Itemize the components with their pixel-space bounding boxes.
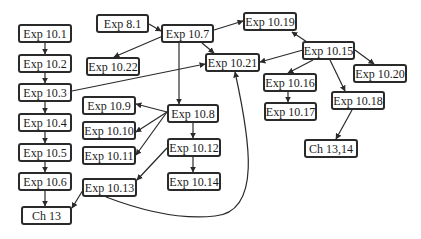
node-ch13: Ch 13 xyxy=(21,206,72,225)
node-label: Exp 10.17 xyxy=(266,106,315,118)
node-label: Exp 10.11 xyxy=(85,150,134,162)
edge-e10_7-to-e10_19 xyxy=(214,21,243,30)
edge-e10_12-to-e10_13 xyxy=(137,148,167,180)
node-label: Exp 10.21 xyxy=(208,57,257,69)
node-e10-16: Exp 10.16 xyxy=(263,73,317,92)
edge-e10_8-to-e10_9 xyxy=(136,104,167,112)
node-label: Exp 10.8 xyxy=(171,108,214,120)
edge-e10_15-to-e10_21 xyxy=(260,50,303,62)
edge-e8_1-to-e10_7 xyxy=(149,24,161,31)
node-label: Exp 10.18 xyxy=(333,95,382,107)
node-e10-1: Exp 10.1 xyxy=(18,24,72,43)
node-label: Exp 10.12 xyxy=(169,142,218,154)
node-ch13-14: Ch 13,14 xyxy=(304,139,358,158)
edge-e10_8-to-e10_10 xyxy=(136,112,167,132)
node-e10-4: Exp 10.4 xyxy=(18,113,72,132)
node-e10-9: Exp 10.9 xyxy=(82,96,136,115)
node-label: Exp 10.16 xyxy=(265,77,314,89)
node-label: Exp 10.22 xyxy=(88,61,137,73)
node-label: Exp 10.19 xyxy=(245,16,294,28)
node-label: Exp 10.10 xyxy=(84,125,133,137)
node-e8-1: Exp 8.1 xyxy=(96,14,149,33)
node-e10-7: Exp 10.7 xyxy=(161,24,214,43)
node-label: Exp 10.6 xyxy=(23,176,66,188)
node-e10-21: Exp 10.21 xyxy=(205,53,260,72)
node-label: Ch 13 xyxy=(32,210,61,222)
node-e10-2: Exp 10.2 xyxy=(18,54,72,73)
node-e10-3: Exp 10.3 xyxy=(18,83,72,102)
node-e10-22: Exp 10.22 xyxy=(86,57,140,76)
edge-e10_8-to-e10_11 xyxy=(136,112,167,155)
node-e10-13: Exp 10.13 xyxy=(82,178,137,197)
node-e10-17: Exp 10.17 xyxy=(264,102,317,121)
edge-e10_7-to-e10_22 xyxy=(114,36,163,57)
node-e10-6: Exp 10.6 xyxy=(18,172,72,191)
node-label: Exp 10.1 xyxy=(23,28,66,40)
node-e10-5: Exp 10.5 xyxy=(18,143,72,162)
node-label: Exp 10.3 xyxy=(23,87,66,99)
node-e10-8: Exp 10.8 xyxy=(167,104,219,123)
node-label: Exp 10.15 xyxy=(304,45,353,57)
node-e10-19: Exp 10.19 xyxy=(243,12,297,31)
node-label: Exp 10.7 xyxy=(166,28,209,40)
edge-e10_18-to-ch13_14 xyxy=(336,110,352,139)
edge-e10_7-to-e10_21 xyxy=(202,43,214,53)
node-label: Exp 10.2 xyxy=(23,58,66,70)
edge-e10_15-to-e10_20 xyxy=(355,50,374,64)
node-label: Exp 10.9 xyxy=(87,100,130,112)
node-e10-10: Exp 10.10 xyxy=(82,121,136,140)
node-e10-15: Exp 10.15 xyxy=(302,41,355,60)
node-label: Ch 13,14 xyxy=(309,143,353,155)
edge-e10_15-to-e10_18 xyxy=(330,60,345,91)
node-e10-14: Exp 10.14 xyxy=(167,172,221,191)
node-e10-12: Exp 10.12 xyxy=(167,138,221,157)
edge-e10_15-to-e10_16 xyxy=(288,60,313,73)
dependency-diagram: Exp 10.1Exp 10.2Exp 10.3Exp 10.4Exp 10.5… xyxy=(0,0,421,239)
node-e10-20: Exp 10.20 xyxy=(353,64,407,83)
node-label: Exp 10.4 xyxy=(23,117,66,129)
node-e10-11: Exp 10.11 xyxy=(82,146,136,165)
node-label: Exp 10.5 xyxy=(23,147,66,159)
node-label: Exp 10.13 xyxy=(85,182,134,194)
node-label: Exp 8.1 xyxy=(104,18,141,30)
node-label: Exp 10.14 xyxy=(169,176,218,188)
node-label: Exp 10.20 xyxy=(355,68,404,80)
node-e10-18: Exp 10.18 xyxy=(331,91,385,110)
